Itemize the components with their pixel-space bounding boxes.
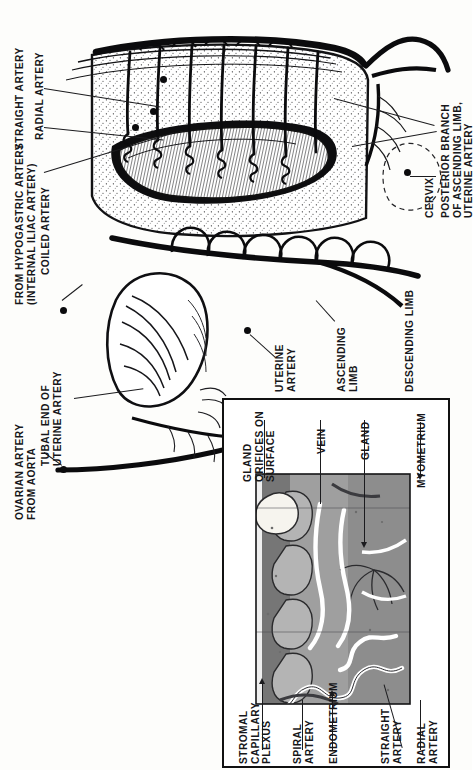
marker-radial-artery: [150, 108, 157, 115]
label-coiled-artery: COILED ARTERY: [40, 187, 52, 275]
label-descending-limb: DESCENDING LIMB: [404, 290, 416, 392]
panel-label-straight-artery: STRAIGHT ARTERY: [380, 708, 403, 764]
label-uterine-artery: UTERINE ARTERY: [274, 344, 297, 392]
panel-label-gland: GLAND: [360, 422, 372, 460]
label-ovarian-artery: OVARIAN ARTERY FROM AORTA: [14, 424, 37, 520]
endometrium-detail-panel: GLAND ORIFICES ON SURFACE VEIN GLAND MYO…: [222, 398, 450, 768]
marker-cervix: [404, 169, 411, 176]
marker-coiled-artery: [132, 124, 139, 131]
panel-label-stromal-capillary-plexus: STROMAL CAPILLARY PLEXUS: [238, 702, 273, 764]
marker-tubal-end: [60, 307, 67, 314]
marker-straight-artery: [160, 76, 167, 83]
panel-label-gland-orifices: GLAND ORIFICES ON SURFACE: [242, 411, 277, 482]
panel-label-vein: VEIN: [316, 428, 328, 454]
marker-ovarian-artery: [60, 466, 67, 473]
panel-arrow-stromal-plexus: [259, 678, 265, 684]
label-from-hypogastric-artery: FROM HYPOGASTRIC ARTERY (INTERNAL ILIAC …: [14, 143, 37, 305]
panel-label-spiral-artery: SPIRAL ARTERY: [292, 720, 315, 764]
cervical-vessel-tree: [366, 39, 448, 210]
label-posterior-branch: POSTERIOR BRANCH OF ASCENDING LIMB, UTER…: [440, 102, 475, 218]
label-cervix: CERVIX: [424, 178, 436, 218]
panel-label-endometrium: ENDOMETRIUM: [328, 682, 340, 764]
panel-label-myometrium: MYOMETRIUM: [416, 413, 428, 488]
label-straight-artery: STRAIGHT ARTERY: [14, 47, 26, 150]
label-ascending-limb: ASCENDING LIMB: [336, 327, 359, 392]
panel-arrow-gland: [361, 542, 367, 548]
label-radial-artery: RADIAL ARTERY: [34, 52, 46, 140]
label-tubal-end-of-uterine-artery: TUBAL END OF UTERINE ARTERY: [40, 371, 63, 466]
panel-label-radial-artery: RADIAL ARTERY: [416, 720, 439, 764]
